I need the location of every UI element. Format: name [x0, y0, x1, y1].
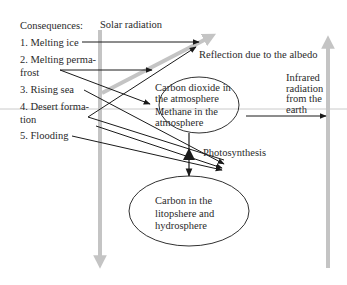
lithosphere-line2: litopshere and [155, 208, 235, 221]
consequences-title: Consequences: [20, 20, 83, 32]
methane-line1: Methane in the [155, 106, 245, 117]
flooding-arrow [72, 136, 222, 170]
atmosphere-ellipse-text: Carbon dioxide in the atmosphere Methane… [155, 82, 245, 128]
consequence-melting-permafrost-line2: frost [20, 67, 96, 79]
consequence-melting-permafrost-line1: 2. Melting perma- [20, 54, 96, 66]
co2-line2: the atmosphere [155, 93, 245, 104]
infrared-label: Infrared radiation from the earth [286, 73, 323, 115]
lithosphere-line1: Carbon in the [155, 195, 235, 208]
consequence-desert-formation-line2: tion [20, 114, 89, 126]
consequence-desert-formation: 4. Desert forma- tion [20, 101, 89, 125]
consequence-melting-permafrost: 2. Melting perma- frost [20, 54, 96, 78]
methane-line2: atmosphere [155, 117, 245, 128]
consequence-desert-formation-line1: 4. Desert forma- [20, 101, 89, 113]
infrared-label-line1: Infrared [286, 73, 323, 84]
carbon-cycle-diagram: Consequences: 1. Melting ice 2. Melting … [0, 0, 347, 285]
infrared-label-line4: earth [286, 105, 323, 116]
solar-radiation-label: Solar radiation [100, 19, 162, 31]
consequence-melting-ice: 1. Melting ice [20, 37, 79, 49]
consequence-flooding: 5. Flooding [20, 130, 68, 142]
lithosphere-ellipse-text: Carbon in the litopshere and hydrosphere [155, 195, 235, 233]
co2-line1: Carbon dioxide in [155, 82, 245, 93]
reflection-label: Reflection due to the albedo [199, 49, 317, 61]
photosynthesis-label: Photosynthesis [203, 147, 266, 159]
lithosphere-line3: hydrosphere [155, 220, 235, 233]
consequence-rising-sea: 3. Rising sea [20, 84, 74, 96]
